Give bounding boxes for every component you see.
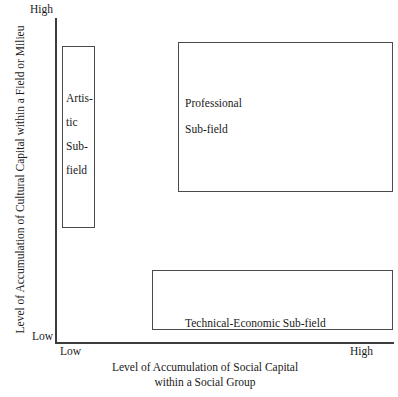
technical-label-line-1: Technical-Economic Sub-field bbox=[185, 312, 326, 335]
professional-label-line-2: Sub-field bbox=[185, 116, 242, 142]
y-axis-title: Level of Accumulation of Cultural Capita… bbox=[14, 15, 27, 345]
artistic-label-line-2: tic bbox=[66, 110, 93, 134]
x-axis-title-line-2: within a Social Group bbox=[55, 375, 355, 390]
diagram-canvas: High Low Low High Level of Accumulation … bbox=[0, 0, 398, 397]
artistic-label-line-1: Artis- bbox=[66, 86, 93, 110]
y-axis-low-tick-label: Low bbox=[32, 330, 53, 343]
x-axis-low-tick-label: Low bbox=[60, 345, 81, 358]
artistic-subfield-label: Artis- tic Sub- field bbox=[66, 86, 93, 182]
x-axis-title-line-1: Level of Accumulation of Social Capital bbox=[55, 360, 355, 375]
professional-label-line-1: Professional bbox=[185, 90, 242, 116]
artistic-label-line-3: Sub- bbox=[66, 134, 93, 158]
technical-economic-subfield-label: Technical-Economic Sub-field bbox=[185, 312, 326, 335]
x-axis-high-tick-label: High bbox=[350, 345, 373, 358]
x-axis-line bbox=[55, 342, 394, 344]
x-axis-title: Level of Accumulation of Social Capital … bbox=[55, 360, 355, 390]
y-axis-line bbox=[55, 18, 57, 343]
y-axis-high-tick-label: High bbox=[30, 3, 53, 16]
professional-subfield-label: Professional Sub-field bbox=[185, 90, 242, 142]
artistic-label-line-4: field bbox=[66, 158, 93, 182]
